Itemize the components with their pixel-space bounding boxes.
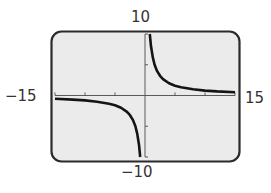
- graphing-calculator-screen: [0, 0, 271, 193]
